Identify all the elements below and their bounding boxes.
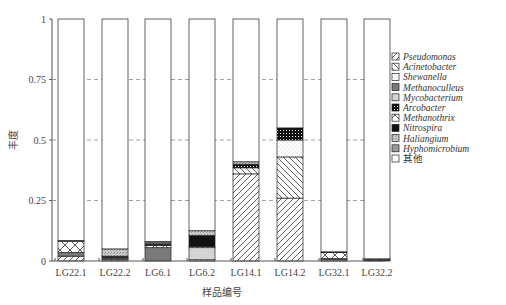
legend-swatch-icon	[392, 63, 399, 70]
x-tick-label: LG6.2	[189, 267, 215, 278]
legend-swatch-icon	[392, 94, 399, 101]
bar-LG14.2	[277, 19, 303, 261]
bar-segment-Nitrospira	[189, 236, 215, 247]
stacked-bar-chart: 00.250.50.751 LG22.1LG22.2LG6.1LG6.2LG14…	[0, 0, 506, 305]
y-tick-label: 0.25	[29, 195, 47, 206]
legend: PseudomonasAcinetobacterShewanellaMethan…	[392, 52, 469, 164]
legend-label: Methanothrix	[402, 113, 455, 123]
bar-segment-其他	[321, 19, 347, 252]
legend-item: Arcobacter	[392, 103, 446, 113]
x-tick-label: LG22.2	[100, 267, 131, 278]
bar-LG6.1	[145, 19, 171, 261]
legend-swatch-icon	[392, 114, 399, 121]
x-tick-label: LG6.1	[145, 267, 171, 278]
legend-item: Mycobacterium	[392, 93, 463, 103]
legend-label: Mycobacterium	[402, 93, 463, 103]
bar-segment-其他	[277, 19, 303, 128]
y-tick-label: 0	[41, 256, 46, 267]
x-tick-label: LG32.2	[362, 267, 393, 278]
bar-segment-Methanothrix	[145, 245, 171, 247]
bar-segment-其他	[189, 19, 215, 231]
bar-segment-Methanoculleus	[145, 248, 171, 261]
y-tick-label: 0.5	[34, 135, 47, 146]
y-axis-title: 丰度	[7, 130, 19, 150]
legend-swatch-icon	[392, 124, 399, 131]
bar-segment-Haliangium	[233, 162, 259, 164]
bar-segment-Haliangium	[189, 231, 215, 236]
bar-segment-其他	[233, 19, 259, 162]
legend-label: Nitrospira	[402, 123, 442, 133]
legend-label: Haliangium	[402, 134, 449, 144]
bar-segment-其他	[145, 19, 171, 242]
legend-label: 其他	[403, 153, 423, 164]
bar-segment-Pseudomonas	[277, 198, 303, 261]
legend-swatch-icon	[392, 155, 399, 162]
bar-segment-Pseudomonas	[233, 174, 259, 261]
bar-LG6.2	[189, 19, 215, 261]
bar-LG22.1	[58, 19, 84, 261]
x-tick-label: LG32.1	[319, 267, 350, 278]
bar-LG14.1	[233, 19, 259, 261]
bar-LG22.2	[102, 19, 128, 261]
bar-segment-其他	[364, 19, 390, 259]
x-tick-label: LG14.2	[275, 267, 306, 278]
y-tick-label: 1	[41, 14, 46, 25]
bar-segment-Haliangium	[102, 249, 128, 256]
bar-segment-Methanothrix	[58, 242, 84, 253]
legend-item: Methanothrix	[392, 113, 455, 123]
legend-label: Shewanella	[403, 72, 447, 82]
legend-swatch-icon	[392, 73, 399, 80]
legend-item: Nitrospira	[392, 123, 442, 133]
legend-swatch-icon	[392, 84, 399, 91]
bar-LG32.1	[321, 19, 347, 261]
legend-item: Haliangium	[392, 134, 449, 144]
x-axis-title: 样品编号	[202, 286, 242, 298]
legend-item: 其他	[392, 153, 423, 164]
bar-segment-Arcobacter	[233, 164, 259, 168]
legend-label: Arcobacter	[402, 103, 446, 113]
bar-segment-其他	[102, 19, 128, 249]
legend-item: Pseudomonas	[392, 52, 456, 62]
bar-segment-Mycobacterium	[189, 248, 215, 260]
y-tick-label: 0.75	[29, 74, 47, 85]
bar-segment-Arcobacter	[277, 128, 303, 140]
bar-segment-Acinetobacter	[277, 157, 303, 198]
legend-label: Methanoculleus	[402, 83, 464, 93]
bar-segment-Shewanella	[277, 140, 303, 157]
legend-swatch-icon	[392, 135, 399, 142]
bar-segment-Methanothrix	[321, 253, 347, 259]
legend-item: Shewanella	[392, 72, 447, 82]
legend-label: Acinetobacter	[402, 62, 457, 72]
legend-label: Pseudomonas	[402, 52, 456, 62]
bar-segment-Methanoculleus	[58, 253, 84, 257]
legend-swatch-icon	[392, 145, 399, 152]
legend-item: Methanoculleus	[392, 83, 464, 93]
bar-LG32.2	[364, 19, 390, 261]
x-axis: LG22.1LG22.2LG6.1LG6.2LG14.1LG14.2LG32.1…	[52, 258, 392, 278]
bar-segment-其他	[58, 19, 84, 240]
legend-item: Acinetobacter	[392, 62, 457, 72]
x-tick-label: LG14.1	[231, 267, 262, 278]
x-tick-label: LG22.1	[56, 267, 87, 278]
bar-segment-Pseudomonas	[58, 256, 84, 261]
legend-swatch-icon	[392, 53, 399, 60]
legend-swatch-icon	[392, 104, 399, 111]
bar-segment-Acinetobacter	[233, 168, 259, 174]
